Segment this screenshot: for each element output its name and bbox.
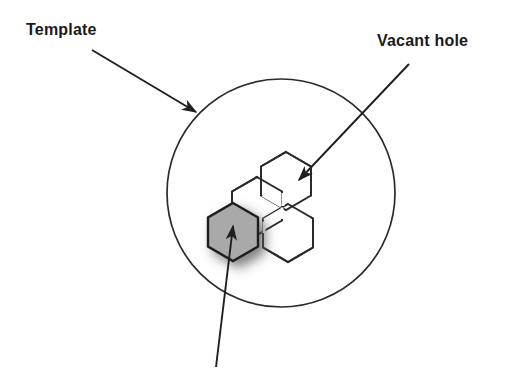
- figure-canvas: Template Vacant hole: [0, 0, 514, 381]
- vacant-hole-arrow: [299, 64, 409, 180]
- template-arrow: [92, 50, 196, 112]
- label-template: Template: [26, 21, 97, 39]
- diagram-svg: [0, 0, 514, 381]
- label-vacant-hole: Vacant hole: [377, 32, 468, 50]
